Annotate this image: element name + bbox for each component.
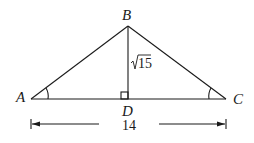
base-length-label: 14 xyxy=(122,118,136,133)
vertex-label-c: C xyxy=(233,91,244,107)
triangle-diagram: B A C D 15 14 xyxy=(0,0,254,143)
arrowhead-left xyxy=(32,122,40,127)
vertex-label-d: D xyxy=(121,103,133,119)
right-angle-mark xyxy=(121,92,128,99)
angle-c-arc xyxy=(209,88,211,99)
side-ab xyxy=(31,26,128,99)
vertex-label-b: B xyxy=(122,7,131,23)
arrowhead-right xyxy=(217,122,225,127)
angle-a-arc xyxy=(46,88,48,99)
vertex-label-a: A xyxy=(15,89,26,105)
altitude-length-label: 15 xyxy=(138,56,152,71)
